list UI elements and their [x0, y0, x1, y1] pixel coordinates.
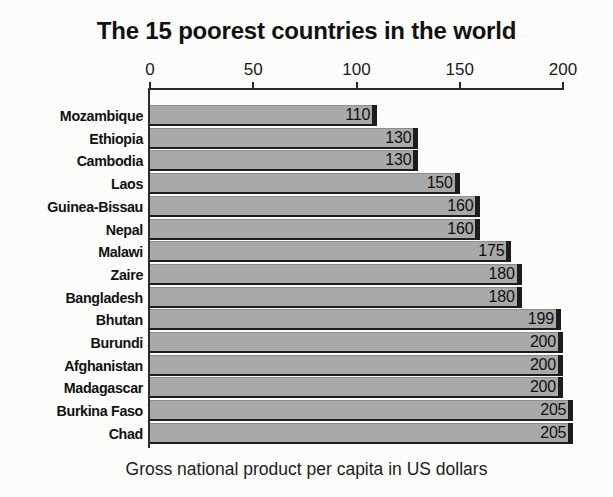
bar-value-label: 150	[150, 173, 457, 194]
bar-category-label: Mozambique	[0, 105, 143, 128]
bar-row: Mozambique110	[150, 105, 590, 128]
bar-category-label: Bangladesh	[0, 287, 143, 310]
bar-category-label: Cambodia	[0, 150, 143, 173]
x-axis-tick	[252, 82, 254, 90]
x-axis: 050100150200	[150, 60, 563, 102]
bar-row: Bhutan199	[150, 309, 590, 332]
bar-value-label: 110	[150, 105, 374, 126]
bar-category-label: Ethiopia	[0, 128, 143, 151]
bar-category-label: Guinea-Bissau	[0, 196, 143, 219]
x-axis-tick	[562, 82, 564, 90]
bar-value-label: 205	[150, 400, 570, 421]
chart-figure: The 15 poorest countries in the world 05…	[0, 0, 613, 497]
bar-row: Burundi200	[150, 332, 590, 355]
x-axis-tick-label: 50	[228, 60, 278, 80]
bar-category-label: Chad	[0, 423, 143, 446]
x-axis-tick	[356, 82, 358, 90]
x-axis-tick-label: 200	[538, 60, 588, 80]
bar-value-label: 160	[150, 219, 477, 240]
bar-row: Guinea-Bissau160	[150, 196, 590, 219]
bar-row: Laos150	[150, 173, 590, 196]
bar-category-label: Burundi	[0, 332, 143, 355]
bar-value-label: 175	[150, 241, 508, 262]
bar-row: Cambodia130	[150, 150, 590, 173]
bar-value-label: 205	[150, 423, 570, 444]
bar-category-label: Afghanistan	[0, 355, 143, 378]
x-axis-tick	[459, 82, 461, 90]
bar-value-label: 199	[150, 309, 558, 330]
bar-category-label: Malawi	[0, 241, 143, 264]
bar-value-label: 130	[150, 150, 415, 171]
chart-title: The 15 poorest countries in the world	[0, 17, 613, 45]
bar-category-label: Zaire	[0, 264, 143, 287]
bar-value-label: 200	[150, 355, 560, 376]
bar-category-label: Burkina Faso	[0, 400, 143, 423]
bar-row: Ethiopia130	[150, 128, 590, 151]
bar-row: Afghanistan200	[150, 355, 590, 378]
bar-value-label: 200	[150, 332, 560, 353]
bar-value-label: 200	[150, 377, 560, 398]
bar-category-label: Nepal	[0, 219, 143, 242]
x-axis-tick-label: 0	[125, 60, 175, 80]
bar-category-label: Madagascar	[0, 377, 143, 400]
x-axis-tick-label: 150	[435, 60, 485, 80]
x-axis-tick-label: 100	[332, 60, 382, 80]
bar-row: Burkina Faso205	[150, 400, 590, 423]
bar-value-label: 130	[150, 128, 415, 149]
plot-area: Mozambique110Ethiopia130Cambodia130Laos1…	[150, 105, 590, 445]
bar-row: Nepal160	[150, 219, 590, 242]
chart-caption: Gross national product per capita in US …	[0, 458, 613, 480]
bar-row: Chad205	[150, 423, 590, 446]
bar-value-label: 160	[150, 196, 477, 217]
bar-value-label: 180	[150, 287, 519, 308]
bar-row: Bangladesh180	[150, 287, 590, 310]
bar-row: Malawi175	[150, 241, 590, 264]
bar-row: Madagascar200	[150, 377, 590, 400]
bar-category-label: Bhutan	[0, 309, 143, 332]
bar-value-label: 180	[150, 264, 519, 285]
bar-category-label: Laos	[0, 173, 143, 196]
bar-row: Zaire180	[150, 264, 590, 287]
